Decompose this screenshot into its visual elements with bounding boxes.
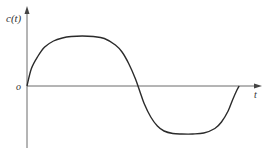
series-line-0 [27,36,239,134]
x-axis [27,84,262,89]
y-axis-arrow-icon [25,6,30,14]
series-layer [27,36,239,134]
origin-label: o [16,81,21,92]
chart: c(t) o t [0,0,273,156]
y-axis-label: c(t) [6,12,22,25]
x-axis-arrow-icon [254,84,262,89]
x-axis-label: t [254,89,257,100]
